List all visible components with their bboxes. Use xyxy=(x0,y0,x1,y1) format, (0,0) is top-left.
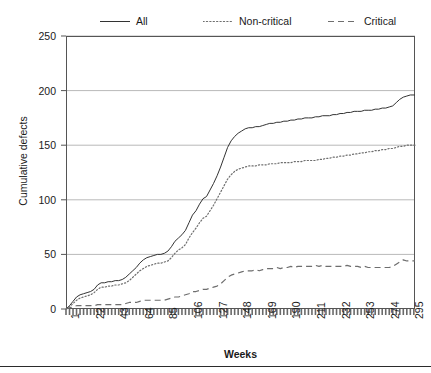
y-ticklabel: 100 xyxy=(22,195,56,206)
x-ticklabel: 190 xyxy=(291,301,302,319)
x-ticklabel: 274 xyxy=(390,301,401,319)
x-ticklabel: 22 xyxy=(95,307,106,319)
y-ticklabel: 0 xyxy=(22,304,56,315)
y-ticklabel: 50 xyxy=(22,249,56,260)
series-line-non-critical xyxy=(66,145,415,309)
y-axis-title: Cumulative defects xyxy=(17,91,29,231)
chart-figure: All Non-critical Critical Cumulative def… xyxy=(0,0,431,373)
x-ticklabel: 106 xyxy=(193,301,204,319)
x-ticklabel: 211 xyxy=(316,302,327,319)
x-axis-title: Weeks xyxy=(66,348,415,360)
plot-frame xyxy=(67,37,415,309)
plot-area xyxy=(0,0,431,340)
y-ticklabel: 150 xyxy=(22,140,56,151)
x-ticklabel: 253 xyxy=(365,301,376,319)
x-ticklabel: 295 xyxy=(414,301,425,319)
x-ticklabel: 85 xyxy=(168,307,179,319)
x-ticklabel: 64 xyxy=(144,307,155,319)
x-ticklabel: 148 xyxy=(242,301,253,319)
series-line-all xyxy=(66,95,415,309)
x-ticklabel: 232 xyxy=(341,301,352,319)
y-ticklabel: 200 xyxy=(22,86,56,97)
footer-rule xyxy=(0,366,431,367)
chart-canvas xyxy=(0,0,431,340)
x-ticklabel: 127 xyxy=(218,301,229,319)
x-ticklabel: 1 xyxy=(70,313,81,319)
y-ticklabel: 250 xyxy=(22,31,56,42)
x-ticklabel: 43 xyxy=(119,307,130,319)
x-ticklabel: 169 xyxy=(267,301,278,319)
